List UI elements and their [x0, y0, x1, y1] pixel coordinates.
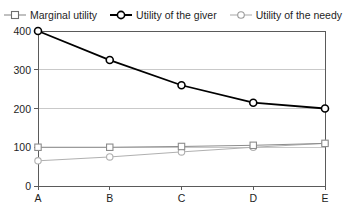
- y-tick-label: 100: [13, 141, 31, 153]
- y-axis-ticks: 4003002001000: [13, 25, 38, 192]
- data-point-marker: [107, 144, 113, 150]
- y-tick-label: 400: [13, 25, 31, 37]
- data-point-marker: [178, 82, 185, 89]
- data-point-marker: [178, 143, 184, 149]
- data-point-marker: [106, 57, 113, 64]
- data-point-marker: [35, 144, 41, 150]
- chart-container: Marginal utility Utility of the giver Ut…: [0, 0, 346, 213]
- y-tick-label: 200: [13, 103, 31, 115]
- x-tick-label: C: [178, 192, 186, 204]
- plot-area: 4003002001000 ABCDE: [0, 0, 346, 213]
- x-tick-label: E: [321, 192, 328, 204]
- x-tick-label: B: [106, 192, 113, 204]
- data-point-marker: [322, 140, 328, 146]
- data-point-marker: [250, 99, 257, 106]
- data-point-marker: [250, 142, 256, 148]
- data-point-marker: [107, 154, 113, 160]
- y-tick-label: 0: [25, 180, 31, 192]
- data-point-marker: [35, 158, 41, 164]
- y-tick-label: 300: [13, 64, 31, 76]
- x-axis-ticks: ABCDE: [34, 186, 328, 204]
- data-series: [35, 28, 329, 165]
- data-point-marker: [35, 28, 42, 35]
- x-tick-label: D: [249, 192, 257, 204]
- data-point-marker: [322, 105, 329, 112]
- x-tick-label: A: [34, 192, 41, 204]
